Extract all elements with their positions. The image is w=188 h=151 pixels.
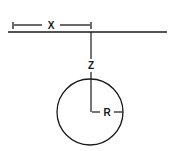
x-label: X [48,20,55,31]
r-label: R [103,107,111,118]
sphere-circle [57,79,123,145]
z-label: Z [88,60,94,71]
geometry-diagram: X Z R [0,0,188,151]
